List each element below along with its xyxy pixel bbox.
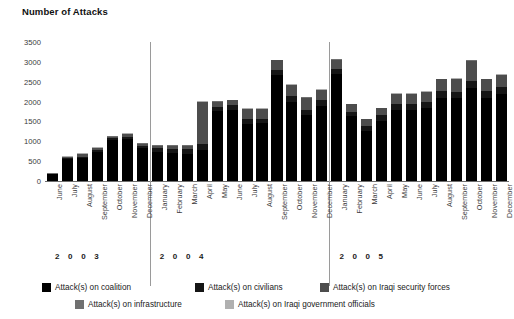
legend-swatch-icon bbox=[75, 300, 84, 309]
bar-segment bbox=[466, 81, 477, 88]
bar-segment bbox=[376, 108, 387, 115]
bar-segment bbox=[197, 102, 208, 144]
legend-item[interactable]: Attack(s) on infrastructure bbox=[75, 300, 182, 309]
x-tick-label: November bbox=[490, 184, 499, 218]
bar-segment bbox=[122, 139, 133, 181]
bar-segment bbox=[271, 60, 282, 70]
legend-row-bottom: Attack(s) on infrastructureAttack(s) on … bbox=[0, 300, 514, 316]
bar-column bbox=[77, 153, 88, 181]
bar-column bbox=[152, 145, 163, 181]
bar-segment bbox=[256, 123, 267, 181]
x-tick-label: June bbox=[235, 184, 244, 200]
x-tick-label: April bbox=[385, 184, 394, 199]
bar-segment bbox=[331, 74, 342, 181]
bar-column bbox=[62, 156, 73, 181]
bar-segment bbox=[346, 116, 357, 181]
bar-series-container bbox=[45, 42, 509, 181]
x-tick-label: November bbox=[310, 184, 319, 218]
bar-column bbox=[466, 60, 477, 181]
bar-segment bbox=[391, 94, 402, 104]
y-axis-ticks: 3500300025002000150010005000 bbox=[0, 42, 41, 181]
bar-column bbox=[496, 74, 507, 181]
bar-column bbox=[197, 101, 208, 181]
bar-column bbox=[167, 145, 178, 181]
bar-segment bbox=[451, 92, 462, 99]
bar-column bbox=[346, 104, 357, 181]
bar-segment bbox=[286, 85, 297, 97]
bar-segment bbox=[167, 153, 178, 181]
bar-segment bbox=[496, 94, 507, 181]
bar-column bbox=[122, 133, 133, 181]
year-label: 2 0 0 5 bbox=[339, 252, 386, 261]
bar-column bbox=[316, 89, 327, 181]
legend-row-top: Attack(s) on coalitionAttack(s) on civil… bbox=[0, 283, 514, 299]
x-tick-label: December bbox=[145, 184, 154, 218]
bar-segment bbox=[62, 159, 73, 181]
bar-segment bbox=[137, 148, 148, 181]
x-tick-label: September bbox=[460, 184, 469, 220]
year-label: 2 0 0 3 bbox=[55, 252, 102, 261]
legend-label: Attack(s) on Iraqi security forces bbox=[333, 283, 450, 292]
bar-column bbox=[406, 93, 417, 181]
x-tick-label: December bbox=[505, 184, 514, 218]
y-tick-label: 1500 bbox=[1, 117, 41, 126]
chart-legend: Attack(s) on coalitionAttack(s) on civil… bbox=[0, 283, 514, 319]
bar-column bbox=[376, 108, 387, 181]
bar-column bbox=[436, 79, 447, 181]
bar-segment bbox=[316, 106, 327, 181]
year-separator-line bbox=[329, 42, 330, 286]
x-tick-label: June bbox=[415, 184, 424, 200]
x-tick-label: June bbox=[55, 184, 64, 200]
x-tick-label: July bbox=[250, 184, 259, 197]
bar-segment bbox=[77, 158, 88, 181]
bar-segment bbox=[406, 110, 417, 181]
bar-column bbox=[107, 136, 118, 181]
y-tick-label: 500 bbox=[1, 157, 41, 166]
x-tick-label: October bbox=[115, 184, 124, 210]
bar-column bbox=[227, 100, 238, 181]
bar-segment bbox=[242, 109, 253, 119]
bar-segment bbox=[406, 94, 417, 104]
legend-item[interactable]: Attack(s) on civilians bbox=[195, 283, 283, 292]
bar-segment bbox=[481, 98, 492, 181]
bar-column bbox=[361, 119, 372, 181]
x-tick-label: October bbox=[475, 184, 484, 210]
bar-column bbox=[242, 108, 253, 181]
bar-column bbox=[301, 97, 312, 181]
legend-item[interactable]: Attack(s) on coalition bbox=[42, 283, 131, 292]
legend-item[interactable]: Attack(s) on Iraqi government officials bbox=[225, 300, 375, 309]
bar-segment bbox=[421, 92, 432, 102]
bar-segment bbox=[436, 98, 447, 181]
bar-segment bbox=[436, 79, 447, 91]
x-tick-label: March bbox=[370, 184, 379, 204]
legend-label: Attack(s) on Iraqi government officials bbox=[238, 300, 375, 309]
bar-column bbox=[92, 147, 103, 181]
x-tick-label: February bbox=[175, 184, 184, 214]
x-tick-label: May bbox=[220, 184, 229, 198]
bar-column bbox=[137, 143, 148, 181]
bar-column bbox=[182, 145, 193, 181]
legend-item[interactable]: Attack(s) on Iraqi security forces bbox=[320, 283, 450, 292]
y-tick-label: 2000 bbox=[1, 97, 41, 106]
bar-column bbox=[212, 101, 223, 181]
bar-segment bbox=[242, 124, 253, 181]
x-tick-label: September bbox=[100, 184, 109, 220]
bar-segment bbox=[421, 108, 432, 181]
bar-segment bbox=[451, 79, 462, 92]
legend-label: Attack(s) on civilians bbox=[208, 283, 283, 292]
bar-segment bbox=[451, 98, 462, 181]
x-tick-label: August bbox=[85, 184, 94, 207]
legend-swatch-icon bbox=[320, 283, 329, 292]
bar-segment bbox=[286, 102, 297, 181]
bar-segment bbox=[92, 152, 103, 181]
x-tick-label: October bbox=[295, 184, 304, 210]
bar-segment bbox=[496, 75, 507, 87]
x-tick-label: September bbox=[280, 184, 289, 220]
bar-segment bbox=[227, 110, 238, 181]
bar-column bbox=[331, 59, 342, 181]
bar-segment bbox=[481, 79, 492, 91]
bar-column bbox=[256, 108, 267, 181]
chart-title: Number of Attacks bbox=[22, 6, 108, 17]
bar-column bbox=[481, 79, 492, 181]
x-tick-label: April bbox=[205, 184, 214, 199]
